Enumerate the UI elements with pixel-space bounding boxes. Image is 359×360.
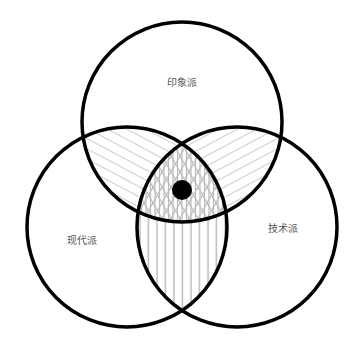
label-top-set: 印象派	[167, 77, 197, 88]
venn-diagram: 印象派 现代派 技术派	[0, 0, 359, 360]
label-left-set: 现代派	[67, 235, 97, 246]
center-dot-marker	[172, 180, 192, 200]
label-right-set: 技术派	[268, 222, 298, 234]
